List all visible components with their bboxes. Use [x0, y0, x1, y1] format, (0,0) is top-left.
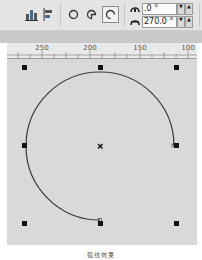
ellipse-mode-button[interactable]	[66, 7, 81, 22]
arc-mode-button[interactable]	[102, 6, 119, 23]
arc-drawing	[7, 59, 197, 245]
ruler-ticks	[7, 43, 197, 58]
pie-mode-button[interactable]	[84, 7, 99, 22]
end-angle-row: 270.0 ° ▼ ▲	[130, 16, 198, 27]
arc-icon	[105, 9, 116, 20]
end-angle-spin-up[interactable]: ▲	[185, 16, 193, 28]
start-angle-spin-up[interactable]: ▲	[185, 3, 193, 15]
toolbar-separator	[60, 4, 61, 26]
center-x-icon	[98, 144, 103, 149]
ellipse-icon	[68, 9, 79, 20]
end-angle-input[interactable]: 270.0 °	[142, 16, 177, 28]
start-angle-input[interactable]: .0 °	[142, 3, 177, 15]
start-angle-icon	[130, 4, 140, 13]
distribute-icon	[42, 8, 55, 21]
distribute-button[interactable]	[41, 7, 56, 22]
align-button[interactable]	[24, 7, 39, 22]
align-icon	[25, 8, 38, 21]
pie-icon	[86, 9, 97, 20]
figure-caption: 弧线效果	[0, 250, 202, 259]
drawing-canvas[interactable]	[7, 59, 197, 245]
end-angle-spin-down[interactable]: ▼	[177, 16, 185, 28]
end-angle-icon	[130, 17, 140, 26]
toolbar-separator	[199, 4, 200, 26]
toolbar-separator	[124, 4, 125, 26]
toolbar-band	[0, 31, 202, 43]
horizontal-ruler[interactable]: 250 200 150 100	[7, 43, 197, 59]
start-angle-spin-down[interactable]: ▼	[177, 3, 185, 15]
property-bar: .0 ° ▼ ▲ 270.0 ° ▼ ▲	[0, 0, 202, 31]
start-angle-row: .0 ° ▼ ▲	[130, 3, 198, 14]
